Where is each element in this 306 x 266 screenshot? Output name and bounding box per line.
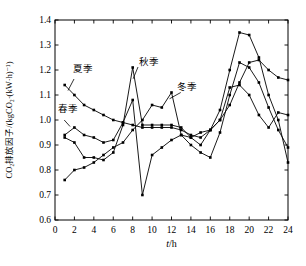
data-point-summer: [170, 126, 173, 129]
data-point-spring: [83, 134, 86, 137]
y-tick-label: 0.8: [39, 165, 51, 175]
data-point-autumn: [83, 156, 86, 159]
figure-co2-emission-factor: 0246810121416182022240.60.70.80.91.01.11…: [0, 0, 306, 266]
data-point-winter: [112, 146, 115, 149]
x-tick-label: 6: [111, 225, 116, 235]
annotation-label-summer: 夏季: [73, 63, 93, 74]
x-tick-label: 4: [91, 225, 96, 235]
data-point-autumn: [277, 119, 280, 122]
data-point-spring: [190, 144, 193, 147]
data-point-spring: [102, 141, 105, 144]
x-tick-label: 20: [244, 225, 254, 235]
data-point-spring: [287, 146, 290, 149]
data-point-summer: [73, 94, 76, 97]
data-point-autumn: [112, 151, 115, 154]
series-line-autumn: [65, 33, 288, 163]
data-point-spring: [63, 134, 66, 137]
data-point-winter: [258, 59, 261, 62]
data-point-autumn: [151, 124, 154, 127]
annotation-winter: 冬季: [170, 81, 197, 99]
data-point-winter: [287, 79, 290, 82]
annotation-spring: 春季: [58, 103, 78, 126]
data-point-summer: [151, 126, 154, 129]
data-point-winter: [151, 104, 154, 107]
data-point-autumn: [228, 69, 231, 72]
data-point-summer: [161, 126, 164, 129]
data-point-autumn: [219, 109, 222, 112]
x-tick-label: 14: [186, 225, 196, 235]
x-tick-label: 12: [167, 225, 177, 235]
data-point-winter: [83, 166, 86, 169]
data-point-summer: [287, 114, 290, 117]
data-point-summer: [248, 94, 251, 97]
data-point-autumn: [287, 161, 290, 164]
series-autumn: [63, 31, 289, 164]
data-point-winter: [267, 69, 270, 72]
data-point-winter: [219, 119, 222, 122]
annotation-summer: 夏季: [68, 63, 93, 90]
series-line-winter: [65, 60, 288, 180]
data-point-winter: [180, 134, 183, 137]
annotation-leader-summer: [68, 79, 74, 91]
data-point-autumn: [170, 124, 173, 127]
data-point-winter: [238, 81, 241, 84]
data-point-winter: [170, 91, 173, 94]
data-point-summer: [83, 104, 86, 107]
data-point-winter: [122, 141, 125, 144]
data-point-autumn: [73, 141, 76, 144]
data-point-spring: [258, 81, 261, 84]
data-point-winter: [228, 104, 231, 107]
y-axis-label: CO₂排放因子/(kgCO₂·(kW·h)⁻¹): [4, 61, 14, 178]
data-point-winter: [209, 129, 212, 132]
data-point-winter: [131, 129, 134, 132]
data-point-summer: [190, 134, 193, 137]
data-point-winter: [199, 144, 202, 147]
data-point-autumn: [122, 124, 125, 127]
x-tick-label: 18: [225, 225, 235, 235]
x-axis-label: t/h: [166, 238, 177, 249]
y-tick-label: 1.1: [39, 90, 51, 100]
data-point-summer: [267, 126, 270, 129]
data-point-spring: [112, 139, 115, 142]
data-point-summer: [112, 119, 115, 122]
data-point-spring: [199, 151, 202, 154]
annotation-autumn: 秋季: [133, 56, 159, 79]
data-point-summer: [228, 86, 231, 89]
x-tick-label: 8: [130, 225, 135, 235]
data-point-summer: [258, 114, 261, 117]
data-point-spring: [209, 156, 212, 159]
x-tick-label: 2: [72, 225, 77, 235]
series-summer: [63, 84, 289, 139]
y-tick-label: 1.4: [39, 15, 51, 25]
y-tick-label: 0.6: [39, 215, 51, 225]
data-point-winter: [190, 136, 193, 139]
y-tick-label: 1.2: [39, 65, 51, 75]
data-point-winter: [277, 76, 280, 79]
data-point-spring: [277, 129, 280, 132]
data-point-spring: [131, 99, 134, 102]
x-tick-label: 22: [264, 225, 274, 235]
plot-border: [55, 20, 288, 220]
x-tick-label: 24: [283, 225, 293, 235]
data-point-spring: [219, 131, 222, 134]
data-point-spring: [151, 154, 154, 157]
y-tick-label: 1.3: [39, 40, 51, 50]
data-point-summer: [131, 124, 134, 127]
data-point-spring: [161, 146, 164, 149]
data-point-summer: [199, 136, 202, 139]
annotation-label-winter: 冬季: [177, 81, 197, 92]
data-point-summer: [141, 126, 144, 129]
data-point-autumn: [248, 34, 251, 37]
data-point-autumn: [102, 159, 105, 162]
data-point-spring: [267, 106, 270, 109]
data-point-winter: [73, 169, 76, 172]
y-tick-label: 1.0: [39, 115, 51, 125]
annotation-leader-spring: [64, 120, 70, 127]
x-tick-label: 16: [206, 225, 216, 235]
data-point-spring: [141, 194, 144, 197]
annotation-label-autumn: 秋季: [139, 56, 159, 67]
data-point-autumn: [258, 56, 261, 59]
data-point-spring: [238, 61, 241, 64]
x-tick-label: 0: [53, 225, 58, 235]
y-tick-label: 0.9: [39, 140, 51, 150]
